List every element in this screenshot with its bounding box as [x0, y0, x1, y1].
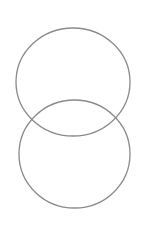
diagram-canvas	[0, 0, 150, 226]
overlapping-circles-diagram	[0, 0, 150, 226]
lower-circle	[19, 100, 130, 208]
upper-circle	[16, 28, 130, 136]
